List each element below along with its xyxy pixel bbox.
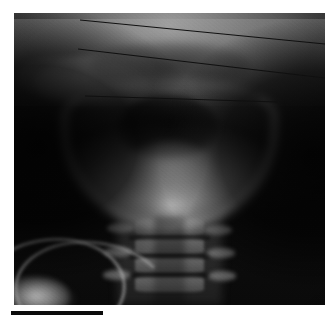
radiograph-image [14,13,325,305]
film-vignette-overlay [14,13,325,305]
figure-root [0,0,333,322]
scale-bar [11,311,103,315]
